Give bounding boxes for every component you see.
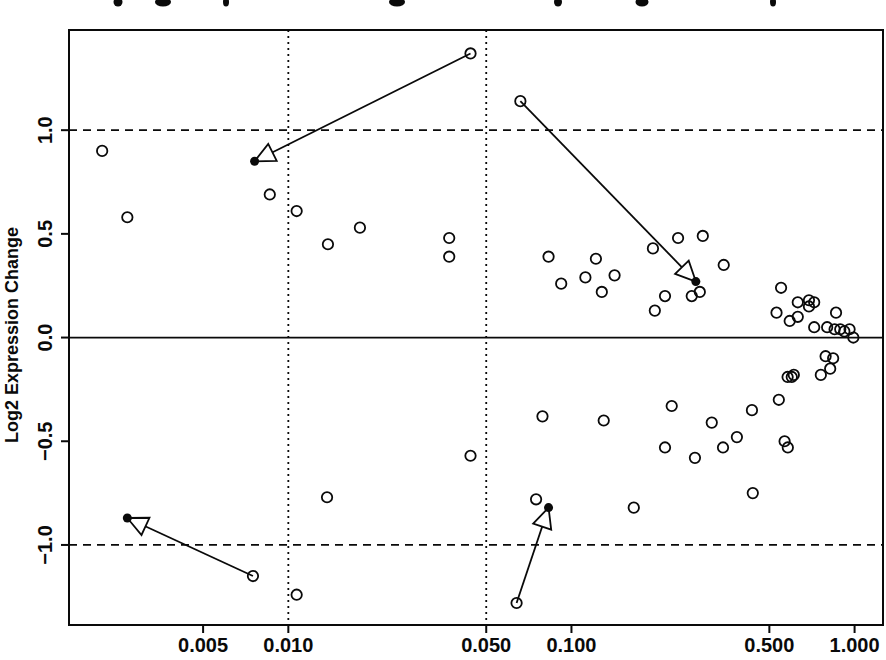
data-point bbox=[779, 436, 789, 446]
data-point bbox=[831, 307, 841, 317]
clipped-title-fragments bbox=[114, 0, 777, 7]
data-point bbox=[748, 488, 758, 498]
data-point bbox=[825, 363, 835, 373]
data-point bbox=[556, 278, 566, 288]
title-fragment bbox=[770, 0, 776, 7]
data-point bbox=[355, 222, 365, 232]
data-point bbox=[265, 189, 275, 199]
data-point bbox=[291, 590, 301, 600]
y-tick-label: 0.0 bbox=[34, 324, 56, 352]
title-fragment bbox=[636, 0, 649, 7]
arrow-endpoint-dot bbox=[544, 503, 553, 512]
x-axis: 0.0050.0100.0500.1000.5001.000 bbox=[178, 625, 880, 656]
x-tick-label: 0.050 bbox=[461, 634, 511, 656]
plot-border bbox=[69, 30, 883, 625]
title-fragment bbox=[389, 0, 405, 7]
chart-canvas: 0.0050.0100.0500.1000.5001.000 1.00.50.0… bbox=[0, 0, 886, 660]
data-point bbox=[783, 442, 793, 452]
data-point bbox=[543, 251, 553, 261]
data-point bbox=[580, 272, 590, 282]
title-fragment bbox=[554, 0, 562, 7]
plot-frame bbox=[69, 30, 883, 625]
x-tick-label: 0.100 bbox=[546, 634, 596, 656]
data-point bbox=[707, 417, 717, 427]
trajectory-arrows bbox=[123, 53, 701, 603]
data-point bbox=[809, 322, 819, 332]
data-points bbox=[97, 48, 859, 608]
data-point bbox=[776, 283, 786, 293]
data-point bbox=[648, 243, 658, 253]
data-point bbox=[719, 260, 729, 270]
y-tick-label: −1.0 bbox=[34, 525, 56, 564]
data-point bbox=[322, 492, 332, 502]
data-point bbox=[444, 251, 454, 261]
data-point bbox=[97, 146, 107, 156]
x-tick-label: 0.005 bbox=[178, 634, 228, 656]
data-point bbox=[690, 453, 700, 463]
y-axis: 1.00.50.0−0.5−1.0 bbox=[34, 116, 69, 564]
data-point bbox=[660, 442, 670, 452]
data-point bbox=[291, 206, 301, 216]
data-point bbox=[122, 212, 132, 222]
data-point bbox=[650, 305, 660, 315]
data-point bbox=[609, 270, 619, 280]
scatter-plot: 0.0050.0100.0500.1000.5001.000 1.00.50.0… bbox=[0, 0, 886, 660]
arrow-endpoint-dot bbox=[250, 157, 259, 166]
arrow-endpoint-dot bbox=[691, 277, 700, 286]
y-tick-label: 0.5 bbox=[34, 220, 56, 248]
reference-lines bbox=[69, 30, 883, 625]
data-point bbox=[629, 502, 639, 512]
y-tick-label: −0.5 bbox=[34, 422, 56, 461]
data-point bbox=[718, 442, 728, 452]
data-point bbox=[771, 307, 781, 317]
y-axis-title: Log2 Expression Change bbox=[2, 227, 22, 443]
data-point bbox=[465, 451, 475, 461]
arrow-shaft bbox=[255, 53, 471, 161]
data-point bbox=[793, 297, 803, 307]
data-point bbox=[599, 415, 609, 425]
title-fragment bbox=[155, 0, 171, 7]
data-point bbox=[531, 494, 541, 504]
title-fragment bbox=[114, 0, 123, 7]
data-point bbox=[774, 395, 784, 405]
x-tick-label: 0.500 bbox=[744, 634, 794, 656]
title-fragment bbox=[223, 0, 229, 7]
data-point bbox=[698, 231, 708, 241]
data-point bbox=[660, 291, 670, 301]
data-point bbox=[537, 411, 547, 421]
arrow-shaft bbox=[520, 101, 695, 281]
data-point bbox=[816, 370, 826, 380]
y-tick-label: 1.0 bbox=[34, 116, 56, 144]
data-point bbox=[323, 239, 333, 249]
data-point bbox=[667, 401, 677, 411]
arrow-endpoint-dot bbox=[123, 513, 132, 522]
data-point bbox=[732, 432, 742, 442]
data-point bbox=[591, 254, 601, 264]
data-point bbox=[444, 233, 454, 243]
data-point bbox=[747, 405, 757, 415]
x-tick-label: 0.010 bbox=[263, 634, 313, 656]
data-point bbox=[673, 233, 683, 243]
x-tick-label: 1.000 bbox=[830, 634, 880, 656]
data-point bbox=[597, 287, 607, 297]
